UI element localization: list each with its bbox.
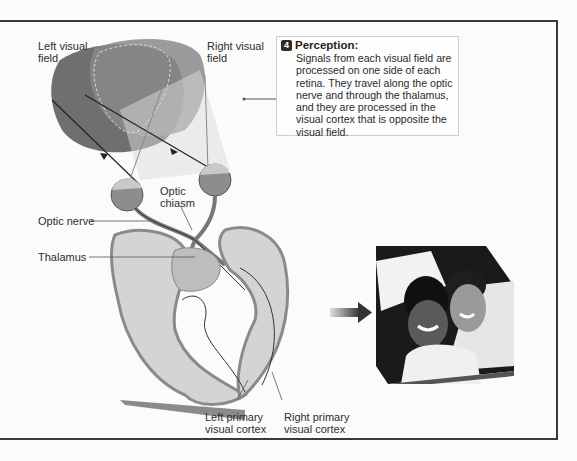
callout-header: 4 Perception: bbox=[281, 39, 454, 52]
label-optic-chiasm: Optic chiasm bbox=[160, 185, 195, 209]
label-left-visual-field: Left visual field bbox=[38, 40, 88, 64]
label-optic-nerve: Optic nerve bbox=[38, 215, 94, 227]
label-left-primary-visual-cortex: Left primary visual cortex bbox=[205, 411, 266, 435]
right-eye-icon bbox=[199, 163, 231, 196]
label-right-primary-visual-cortex: Right primary visual cortex bbox=[284, 411, 349, 435]
step-badge: 4 bbox=[281, 40, 292, 51]
callout-title: Perception: bbox=[295, 39, 358, 52]
brain-cross-section bbox=[111, 228, 287, 420]
label-right-visual-field: Right visual field bbox=[207, 40, 264, 64]
perception-callout: 4 Perception: Signals from each visual f… bbox=[276, 36, 459, 136]
callout-body: Signals from each visual field are proce… bbox=[281, 52, 454, 138]
label-thalamus: Thalamus bbox=[38, 251, 86, 263]
couple-photo bbox=[376, 246, 514, 384]
left-eye-icon bbox=[111, 178, 143, 211]
arrow-right-icon bbox=[330, 302, 372, 323]
